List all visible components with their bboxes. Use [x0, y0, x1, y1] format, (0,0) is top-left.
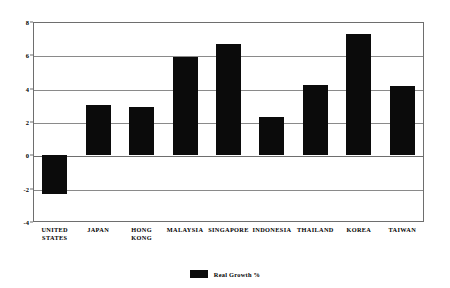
- bar: [42, 155, 67, 193]
- bars-layer: [33, 22, 424, 222]
- x-axis-label: JAPAN: [76, 226, 119, 234]
- y-axis-tick-label: 0: [26, 152, 29, 159]
- y-axis: 86420-2-4: [0, 22, 33, 222]
- y-axis-tick-label: -4: [24, 219, 29, 226]
- x-axis-label: THAILAND: [294, 226, 337, 234]
- x-axis-label: TAIWAN: [381, 226, 424, 234]
- x-axis-label: KOREA: [337, 226, 380, 234]
- x-axis-label: MALAYSIA: [163, 226, 206, 234]
- bar: [346, 34, 371, 156]
- bar-chart: 86420-2-4 UNITED STATESJAPANHONG KONGMAL…: [0, 0, 450, 288]
- legend-swatch-real-growth: [190, 270, 208, 278]
- y-axis-tick-label: 2: [26, 119, 29, 126]
- x-axis-label: UNITED STATES: [33, 226, 76, 243]
- y-axis-tick-label: 6: [26, 52, 29, 59]
- x-axis-label: INDONESIA: [250, 226, 293, 234]
- bar: [86, 105, 111, 155]
- y-axis-tick-label: -2: [24, 185, 29, 192]
- bar: [303, 85, 328, 155]
- bar: [129, 107, 154, 155]
- bar: [259, 117, 284, 155]
- y-axis-tick-label: 8: [26, 19, 29, 26]
- legend: Real Growth %: [0, 270, 450, 278]
- bar: [173, 57, 198, 155]
- y-axis-tick-label: 4: [26, 85, 29, 92]
- x-axis-label: HONG KONG: [120, 226, 163, 243]
- x-axis-label: SINGAPORE: [207, 226, 250, 234]
- legend-label-real-growth: Real Growth %: [214, 271, 260, 278]
- bar: [390, 86, 415, 155]
- x-axis-category-labels: UNITED STATESJAPANHONG KONGMALAYSIASINGA…: [33, 226, 424, 252]
- bar: [216, 44, 241, 156]
